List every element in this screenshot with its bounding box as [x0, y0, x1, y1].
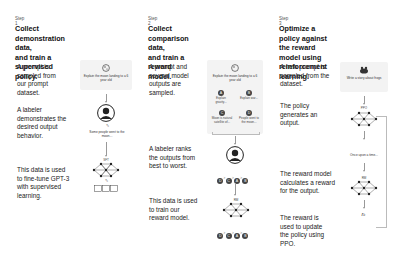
ranking-row: D>C>A>B: [217, 168, 249, 186]
output-c: CMoon is natural satellite of...: [211, 110, 233, 124]
arrow-down-icon: [106, 94, 107, 102]
prompt-text: Explain the moon landing to a 6 year old: [210, 74, 260, 82]
step-1-desc-1: A prompt is sampled from our prompt data…: [17, 63, 65, 97]
step-2-desc-2: A labeler ranks the outputs from best to…: [149, 145, 201, 171]
step-3-title-line1: Optimize a policy against: [279, 24, 327, 43]
prompt-box: Write a story about frogs: [340, 62, 388, 92]
arrow-down-icon: [364, 96, 365, 104]
neural-network-icon: [350, 180, 378, 196]
feedback-loop-bracket: [376, 116, 387, 228]
arrow-down-icon: [364, 163, 365, 171]
bracket: [212, 132, 260, 135]
step-2-desc-1: A prompt and several model outputs are s…: [149, 63, 197, 97]
output-d: DPeople went to the moon...: [238, 110, 260, 124]
moon-icon: [102, 64, 110, 72]
pencil-icon: ✎: [103, 179, 109, 183]
output-b: BExplain war...: [239, 90, 259, 100]
step-3-desc-2: The policy generates an output.: [280, 102, 320, 128]
prompt-text: Write a story about frogs: [344, 76, 384, 80]
ppo-label: PPO: [354, 106, 374, 110]
labeler-avatar-icon: [97, 104, 115, 122]
arrow-down-icon: [364, 200, 365, 208]
arrow-down-icon: [235, 183, 236, 195]
step-1-desc-2: A labeler demonstrates the desired outpu…: [17, 106, 69, 140]
frog-icon: [359, 66, 369, 74]
step-3-desc-3: The reward model calculates a reward for…: [280, 170, 338, 196]
neural-network-icon: [92, 162, 120, 178]
prompt-box: Explain the moon landing to a 6 year old: [80, 60, 132, 90]
step-3-desc-1: A new prompt is sampled from the dataset…: [280, 63, 330, 89]
arrow-down-icon: [235, 136, 236, 144]
reward-symbol: rₖ: [357, 212, 371, 216]
ranking-row-output: D>C>A>B: [217, 223, 249, 241]
neural-network-icon: [350, 111, 378, 127]
documents-icon: [94, 185, 118, 192]
prompt-outputs-box: Explain the moon landing to a 6 year old…: [207, 60, 263, 134]
step-3-desc-4: The reward is used to update the policy …: [280, 214, 332, 248]
step-1-desc-3: This data is used to fine-tune GPT-3 wit…: [17, 166, 72, 200]
step-2-desc-3: This data is used to train our reward mo…: [149, 197, 199, 223]
moon-icon: [231, 64, 239, 72]
step-1-title-line1: Collect demonstration data,: [15, 24, 65, 53]
demo-text: Some people went to the moon...: [86, 130, 128, 138]
neural-network-icon: [222, 202, 250, 218]
labeler-avatar-icon: [226, 146, 244, 164]
step-3-title-line2: the reward model using: [279, 43, 327, 62]
pencil-icon: ✎: [104, 124, 110, 128]
step-2-title-line1: Collect comparison data,: [148, 24, 189, 53]
arrow-down-icon: [106, 142, 107, 156]
prompt-text: Explain the moon landing to a 6 year old: [82, 74, 130, 82]
arrow-down-icon: [364, 131, 365, 139]
output-a: AExplain gravity...: [211, 90, 231, 104]
